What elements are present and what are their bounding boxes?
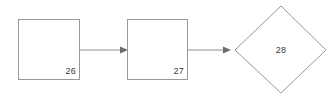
- arrowhead-icon: [120, 47, 128, 54]
- node-26-label: 26: [66, 66, 76, 76]
- diagram-canvas: 26 27 28: [0, 0, 331, 97]
- node-26[interactable]: 26: [19, 20, 80, 80]
- node-28-label: 28: [276, 45, 286, 55]
- node-28[interactable]: 28: [235, 6, 326, 93]
- node-27-label: 27: [174, 66, 184, 76]
- edge-26-to-27[interactable]: [80, 47, 128, 54]
- edge-27-to-28[interactable]: [188, 47, 231, 54]
- flow-diagram: 26 27 28: [0, 0, 331, 97]
- node-27[interactable]: 27: [128, 20, 188, 80]
- arrowhead-icon: [223, 47, 231, 54]
